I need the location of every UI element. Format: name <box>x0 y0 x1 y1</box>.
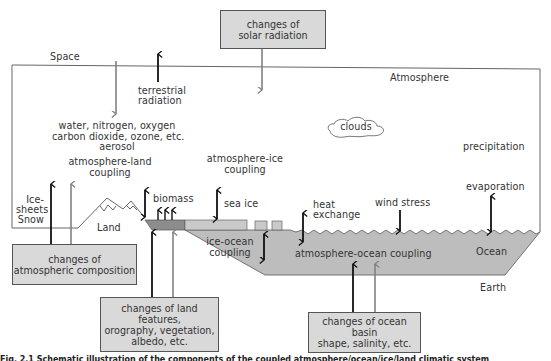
label-atm-ice-coupling-2: coupling <box>200 164 290 175</box>
land-features-box: changes of land features, orography, veg… <box>100 297 219 352</box>
climate-system-diagram: changes of solar radiation changes of at… <box>0 0 551 361</box>
label-atm-land-coupling-2: coupling <box>60 167 160 178</box>
label-ice-sheets-3: Snow <box>16 214 44 225</box>
label-ice-ocean-coupling-2: coupling <box>205 247 255 258</box>
label-biomass: biomass <box>153 193 194 204</box>
sea-ice-slab <box>185 220 247 230</box>
atmospheric-composition-box: changes of atmospheric composition <box>12 244 137 285</box>
land-surface-strip <box>145 220 185 230</box>
label-land: Land <box>97 222 121 233</box>
label-gases-1: water, nitrogen, oxygen <box>52 120 182 131</box>
label-gases-3: aerosol <box>52 141 182 152</box>
label-terrestrial-radiation-2: radiation <box>138 95 180 106</box>
ocean-basin-box: changes of ocean basin shape, salinity, … <box>308 312 421 353</box>
label-clouds: clouds <box>340 121 372 132</box>
ice-floe-1 <box>255 221 267 230</box>
label-ice-ocean-coupling-1: ice-ocean <box>205 236 255 247</box>
figure-caption: Fig. 2.1 Schematic illustration of the c… <box>0 355 489 361</box>
label-ocean: Ocean <box>476 246 507 257</box>
label-atm-land-coupling-1: atmosphere-land <box>60 156 160 167</box>
label-heat-exchange-2: exchange <box>313 209 360 220</box>
label-space: Space <box>50 51 80 62</box>
label-sea-ice: sea ice <box>224 198 258 209</box>
ice-floe-2 <box>272 221 282 230</box>
label-earth: Earth <box>480 282 506 293</box>
solar-radiation-box: changes of solar radiation <box>220 10 326 49</box>
label-wind-stress: wind stress <box>375 197 430 208</box>
label-precipitation: precipitation <box>463 141 525 152</box>
label-atm-ocean-coupling: atmosphere-ocean coupling <box>295 248 425 259</box>
label-evaporation: evaporation <box>466 181 525 192</box>
label-atmosphere: Atmosphere <box>390 72 449 83</box>
label-atm-ice-coupling-1: atmosphere-ice <box>200 153 290 164</box>
